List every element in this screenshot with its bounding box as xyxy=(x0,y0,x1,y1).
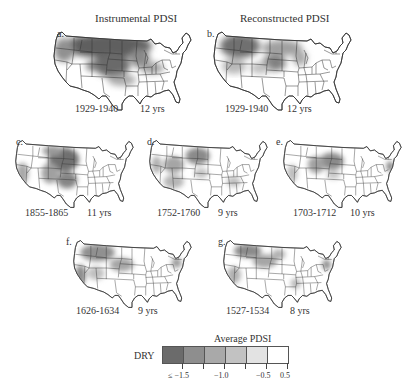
panel-a-label: a. xyxy=(57,28,64,39)
panel-a-period: 1929-1940 xyxy=(75,103,118,114)
panel-e-duration: 10 yrs xyxy=(350,207,375,218)
panel-a-duration: 12 yrs xyxy=(140,103,165,114)
panel-d-period: 1752-1760 xyxy=(157,207,200,218)
legend-swatch xyxy=(226,347,247,363)
legend-tick xyxy=(245,363,246,369)
panel-c-map xyxy=(14,138,134,210)
legend-colorbar xyxy=(162,346,289,364)
panel-e-label: e. xyxy=(276,136,283,147)
legend-tick xyxy=(182,363,183,369)
panel-d-label: d. xyxy=(147,136,155,147)
panel-f-period: 1626-1634 xyxy=(76,305,119,316)
legend-swatch xyxy=(268,347,288,363)
panel-e-period: 1703-1712 xyxy=(293,207,336,218)
legend: Average PDSI DRY ≤ −1.5 −1.0 −0.5 0.5 xyxy=(162,333,362,383)
panel-d-map xyxy=(148,138,268,210)
panel-b-label: b. xyxy=(207,28,215,39)
legend-dry-label: DRY xyxy=(134,350,155,361)
panel-e-map xyxy=(282,138,402,210)
panel-c-period: 1855-1865 xyxy=(25,207,68,218)
legend-swatch xyxy=(247,347,268,363)
legend-swatch xyxy=(163,347,184,363)
legend-tick-label: 0.5 xyxy=(280,371,290,380)
legend-tick-label: −0.5 xyxy=(256,371,271,380)
panel-b-map xyxy=(212,30,352,112)
panel-a-map xyxy=(52,30,192,112)
legend-tick xyxy=(266,363,267,369)
legend-tick xyxy=(224,363,225,369)
legend-swatch xyxy=(184,347,205,363)
column-title-reconstructed: Reconstructed PDSI xyxy=(240,12,330,24)
legend-title: Average PDSI xyxy=(214,333,271,344)
legend-tick xyxy=(203,363,204,369)
panel-c-duration: 11 yrs xyxy=(87,207,111,218)
panel-f-duration: 9 yrs xyxy=(138,305,158,316)
panel-g-duration: 8 yrs xyxy=(290,305,310,316)
legend-tick-label: −1.0 xyxy=(214,371,229,380)
panel-d-duration: 9 yrs xyxy=(218,207,238,218)
panel-b-duration: 12 yrs xyxy=(287,103,312,114)
panel-f-map xyxy=(72,238,192,310)
panel-c-label: c. xyxy=(16,136,23,147)
panel-g-label: g. xyxy=(218,236,226,247)
legend-tick xyxy=(287,363,288,369)
column-title-instrumental: Instrumental PDSI xyxy=(95,12,177,24)
panel-f-label: f. xyxy=(66,236,72,247)
panel-b-period: 1929-1940 xyxy=(225,103,268,114)
legend-tick-label: ≤ −1.5 xyxy=(168,371,189,380)
legend-swatch xyxy=(205,347,226,363)
panel-g-period: 1527-1534 xyxy=(226,305,269,316)
panel-g-map xyxy=(222,238,342,310)
